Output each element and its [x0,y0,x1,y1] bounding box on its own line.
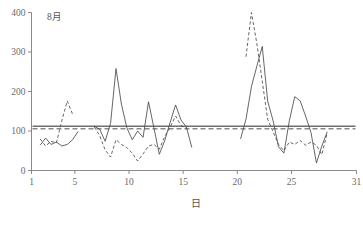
x-tick-label: 1 [29,177,34,187]
dashed-series [94,116,186,161]
y-tick-label: 300 [11,47,26,57]
solid-series [94,69,192,155]
y-tick-label: 400 [11,8,26,18]
x-tick-label: 15 [178,177,188,187]
y-tick-label: 200 [11,87,26,97]
solid-series [40,131,78,146]
dashed-series [246,13,327,155]
x-tick-label: 5 [72,177,77,187]
y-tick-label: 0 [21,166,26,176]
chart-container: 0100200300400 151015202531 8月 日 [0,0,363,228]
y-tick-label: 100 [11,126,26,136]
x-axis-ticks: 151015202531 [29,171,361,187]
x-tick-label: 25 [287,177,297,187]
solid-series [241,46,328,163]
x-tick-label: 31 [352,177,362,187]
axes-group [32,13,357,171]
data-series-group [40,13,327,164]
x-tick-label: 20 [233,177,243,187]
x-axis-title-label: 日 [191,198,201,209]
x-tick-label: 10 [124,177,134,187]
reference-lines-group [33,126,356,128]
y-axis-ticks: 0100200300400 [11,8,31,176]
panel-title-label: 8月 [47,12,62,22]
line-chart-plot: 0100200300400 151015202531 8月 日 [0,0,363,228]
